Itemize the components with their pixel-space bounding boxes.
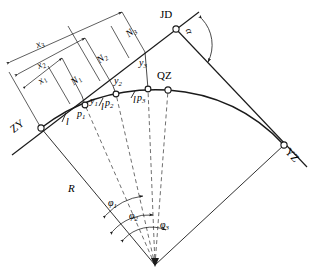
alpha-arc [202, 19, 212, 62]
point-marker-jd [173, 26, 179, 32]
label-phi2: φ2 [129, 211, 138, 223]
label-y2: y2 [114, 76, 122, 88]
deflection-angle-arc [202, 19, 212, 62]
chord-marks [62, 91, 135, 122]
ext-line-x1 [48, 66, 70, 104]
label-chord-2: l [101, 102, 104, 112]
label-chord-3: l [133, 95, 136, 105]
label-radius-r: R [68, 183, 75, 194]
diagram-canvas [0, 0, 315, 274]
label-y3-index: 3 [143, 62, 146, 69]
label-p1-index: 1 [82, 113, 85, 120]
label-y1: y1 [90, 96, 98, 108]
label-p2-index: 2 [110, 102, 113, 109]
label-phi2-index: 2 [135, 215, 138, 222]
curve-layout-diagram: ZY JD YZ QZ α R p1 p2 p3 y1 y2 y3 N1 N2 … [0, 0, 315, 274]
label-phi3: φ3 [160, 220, 169, 232]
solid-radius-lines [41, 128, 284, 265]
label-phi1-index: 1 [114, 202, 117, 209]
radius-to-yz [155, 145, 284, 265]
label-qz: QZ [157, 70, 172, 81]
label-p2: p2 [105, 98, 113, 110]
point-marker-p1 [82, 102, 88, 108]
label-y3: y3 [139, 58, 147, 70]
label-p3: p3 [137, 93, 145, 105]
label-phi1: φ1 [108, 198, 117, 210]
label-y2-index: 2 [118, 80, 121, 87]
point-marker-yz [281, 142, 287, 148]
radius-lines [85, 89, 168, 265]
label-jd: JD [160, 9, 172, 20]
radius-to-qz [155, 90, 168, 265]
radius-to-p3 [148, 89, 155, 265]
label-p1: p1 [77, 109, 85, 121]
label-y1-index: 1 [94, 100, 97, 107]
label-p3-index: 3 [142, 97, 145, 104]
label-chord-1: l [66, 117, 69, 127]
radius-to-p1 [85, 105, 155, 265]
label-phi3-index: 3 [166, 224, 169, 231]
point-marker-qz [165, 87, 171, 93]
point-marker-zy [38, 125, 44, 131]
radius-to-p2 [116, 94, 155, 265]
point-marker-p2 [113, 91, 119, 97]
point-marker-p3 [145, 86, 151, 92]
